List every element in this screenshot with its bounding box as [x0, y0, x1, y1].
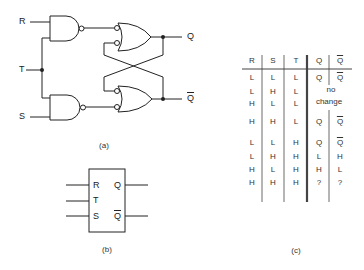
table-cell: H [288, 153, 304, 161]
table-cell: L [265, 74, 281, 82]
input-label-r: R [19, 17, 26, 26]
table-cell: L [244, 74, 260, 82]
pin-label-r: R [93, 181, 100, 190]
table-cell: Q [311, 139, 327, 147]
caption-b: (b) [102, 245, 112, 254]
table-cell: H [244, 100, 260, 108]
pin-label-s: S [93, 212, 99, 221]
table-cell: H [288, 179, 304, 187]
header-r: R [244, 57, 260, 65]
header-s: S [265, 57, 281, 65]
table-cell: Q [311, 74, 327, 82]
table-cell: ? [311, 179, 327, 187]
table-cell: H [265, 88, 281, 96]
caption-c: (c) [291, 246, 300, 255]
table-cell: L [332, 166, 348, 174]
header-t: T [288, 57, 304, 65]
table-cell: H [244, 179, 260, 187]
table-cell: L [244, 88, 260, 96]
table-cell: H [288, 139, 304, 147]
table-cell: Q [311, 118, 327, 126]
table-cell: H [244, 118, 260, 126]
input-label-s: S [19, 112, 25, 121]
table-cell: H [332, 153, 348, 161]
no-change-text: no [316, 86, 346, 94]
header-qbar: Q [332, 57, 348, 65]
table-cell: L [288, 118, 304, 126]
caption-a: (a) [99, 141, 109, 150]
table-cell: L [288, 100, 304, 108]
table-cell: H [288, 166, 304, 174]
table-cell: L [244, 153, 260, 161]
circuit-diagram [0, 0, 364, 270]
table-cell: L [288, 74, 304, 82]
table-cell: H [265, 153, 281, 161]
table-cell: L [311, 153, 327, 161]
table-cell: L [265, 100, 281, 108]
pin-label-qbar: Q [114, 212, 121, 221]
table-cell: H [265, 179, 281, 187]
input-label-t: T [19, 65, 25, 74]
table-cell: H [311, 166, 327, 174]
junction-dot [40, 68, 44, 72]
table-cell: Q [332, 139, 348, 147]
pin-label-q: Q [114, 181, 121, 190]
header-q: Q [311, 57, 327, 65]
table-cell: ? [332, 179, 348, 187]
table-cell: L [244, 139, 260, 147]
table-cell: L [288, 88, 304, 96]
pin-label-t: T [93, 196, 99, 205]
table-cell: Q [332, 74, 348, 82]
table-cell: L [265, 139, 281, 147]
table-cell: Q [332, 118, 348, 126]
junction-dot [161, 97, 165, 101]
output-label-qbar: Q [187, 94, 194, 103]
table-cell: H [265, 118, 281, 126]
output-label-q: Q [187, 32, 194, 41]
no-change-text: change [309, 98, 349, 106]
junction-dot [161, 35, 165, 39]
table-cell: H [244, 166, 260, 174]
table-cell: L [265, 166, 281, 174]
